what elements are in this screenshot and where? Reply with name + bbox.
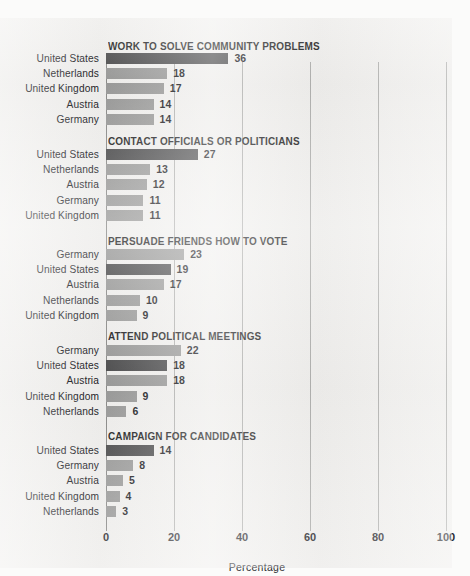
bar-category-label: Germany — [0, 194, 99, 206]
bar-category-label: Netherlands — [0, 163, 99, 175]
group-title-5: CAMPAIGN FOR CANDIDATES — [108, 430, 256, 442]
bar-value-label: 19 — [177, 263, 189, 275]
bar-row: Netherlands13 — [106, 164, 452, 175]
bar-value-label: 13 — [156, 163, 168, 175]
x-tick-label-40: 40 — [236, 531, 248, 543]
group-title-2: CONTACT OFFICIALS OR POLITICIANS — [108, 135, 300, 147]
bar-category-label: United Kingdom — [0, 390, 99, 402]
bar — [106, 99, 154, 110]
bar-value-label: 17 — [170, 82, 182, 94]
bar-value-label: 8 — [139, 459, 145, 471]
bar-value-label: 14 — [160, 444, 172, 456]
bar-category-label: Netherlands — [0, 67, 99, 79]
bar-value-label: 18 — [173, 374, 185, 386]
bar — [106, 445, 154, 456]
bar-category-label: Austria — [0, 374, 99, 386]
bar-value-label: 11 — [149, 194, 160, 206]
bar-row: United Kingdom11 — [106, 210, 452, 221]
bar-value-label: 14 — [160, 98, 172, 110]
bar-category-label: Germany — [0, 248, 99, 260]
bar-category-label: United States — [0, 148, 99, 160]
bar-row: Germany8 — [106, 460, 452, 471]
bar-row: Netherlands3 — [106, 506, 452, 517]
bar — [106, 210, 143, 221]
bar — [106, 264, 171, 275]
bar-category-label: United Kingdom — [0, 309, 99, 321]
bar — [106, 164, 150, 175]
bar-row: Austria12 — [106, 179, 452, 190]
bar — [106, 114, 154, 125]
x-tick-label-20: 20 — [168, 531, 180, 543]
bar-value-label: 3 — [122, 505, 128, 517]
x-tick-label-80: 80 — [372, 531, 384, 543]
x-axis-title: Percentage — [0, 561, 452, 573]
bar-value-label: 9 — [143, 309, 149, 321]
bar-value-label: 4 — [126, 490, 132, 502]
bar-category-label: Austria — [0, 474, 99, 486]
bar-value-label: 36 — [234, 52, 246, 64]
bar — [106, 83, 164, 94]
bar — [106, 68, 167, 79]
bar-row: United States14 — [106, 445, 452, 456]
bar — [106, 460, 133, 471]
bar-row: United Kingdom9 — [106, 391, 452, 402]
bar-row: United States19 — [106, 264, 452, 275]
bar-category-label: Netherlands — [0, 405, 99, 417]
x-tick-label-100: 100 — [437, 531, 455, 543]
bar-category-label: United Kingdom — [0, 490, 99, 502]
bar — [106, 179, 147, 190]
bar-row: Germany14 — [106, 114, 452, 125]
bar — [106, 406, 126, 417]
bar-row: United States36 — [106, 53, 452, 64]
bar-value-label: 18 — [173, 359, 185, 371]
bar-row: Netherlands6 — [106, 406, 452, 417]
bar — [106, 195, 143, 206]
bar-row: Austria14 — [106, 99, 452, 110]
bar-value-label: 22 — [187, 344, 199, 356]
bar-category-label: Netherlands — [0, 294, 99, 306]
x-tick-label-0: 0 — [103, 531, 109, 543]
bar-category-label: United States — [0, 444, 99, 456]
group-title-4: ATTEND POLITICAL MEETINGS — [108, 330, 261, 342]
bar-row: United Kingdom17 — [106, 83, 452, 94]
bar — [106, 53, 228, 64]
bar-category-label: Austria — [0, 98, 99, 110]
x-tick-label-60: 60 — [304, 531, 316, 543]
bar-row: United States18 — [106, 360, 452, 371]
bar — [106, 345, 181, 356]
bar-row: Netherlands18 — [106, 68, 452, 79]
bar-row: United Kingdom4 — [106, 491, 452, 502]
bar-value-label: 12 — [153, 178, 165, 190]
bar-value-label: 11 — [149, 209, 160, 221]
bar-category-label: Netherlands — [0, 505, 99, 517]
bar-category-label: Austria — [0, 278, 99, 290]
bar — [106, 295, 140, 306]
bar — [106, 249, 184, 260]
bar-row: Germany22 — [106, 345, 452, 356]
bar-value-label: 6 — [132, 405, 138, 417]
bar-row: Germany23 — [106, 249, 452, 260]
bar — [106, 149, 198, 160]
bar-category-label: United States — [0, 263, 99, 275]
bar-value-label: 27 — [204, 148, 216, 160]
bar-row: United States27 — [106, 149, 452, 160]
bar-row: United Kingdom9 — [106, 310, 452, 321]
bar-value-label: 5 — [129, 474, 135, 486]
bar-category-label: Germany — [0, 344, 99, 356]
bar — [106, 506, 116, 517]
group-title-1: WORK TO SOLVE COMMUNITY PROBLEMS — [108, 40, 320, 52]
bar-row: Austria17 — [106, 279, 452, 290]
bar-category-label: Germany — [0, 459, 99, 471]
bar-value-label: 23 — [190, 248, 202, 260]
x-axis-title-label: Percentage — [229, 561, 286, 573]
bar-row: Germany11 — [106, 195, 452, 206]
bar-category-label: Germany — [0, 113, 99, 125]
chart-panel: 020406080100 WORK TO SOLVE COMMUNITY PRO… — [0, 18, 452, 568]
bar — [106, 491, 120, 502]
bar-row: Austria5 — [106, 475, 452, 486]
bar — [106, 360, 167, 371]
group-title-3: PERSUADE FRIENDS HOW TO VOTE — [108, 235, 288, 247]
bar-value-label: 9 — [143, 390, 149, 402]
bar-value-label: 17 — [170, 278, 182, 290]
bar-category-label: United States — [0, 359, 99, 371]
